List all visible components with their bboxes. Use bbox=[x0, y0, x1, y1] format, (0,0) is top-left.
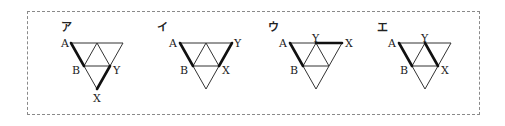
bold-edge-a-b bbox=[180, 43, 193, 66]
bold-edge-y-x bbox=[425, 43, 438, 66]
point-label-a: A bbox=[387, 37, 397, 50]
triangle-figures: ア A B Y X イ A B X Y ウ bbox=[0, 0, 505, 126]
figure-e: エ A B Y X bbox=[377, 21, 451, 89]
figure-u: ウ A B Y X bbox=[268, 21, 353, 89]
bold-edge-y-x bbox=[97, 66, 110, 89]
point-label-x: X bbox=[441, 64, 449, 77]
point-label-b: B bbox=[180, 64, 188, 77]
point-label-x: X bbox=[222, 64, 230, 77]
point-label-x: X bbox=[93, 92, 101, 105]
point-label-a: A bbox=[168, 37, 178, 50]
point-label-x: X bbox=[345, 37, 353, 50]
bold-edge-a-b bbox=[290, 43, 303, 66]
bold-edge-a-b bbox=[399, 43, 412, 66]
point-label-a: A bbox=[60, 37, 70, 50]
point-label-a: A bbox=[278, 37, 288, 50]
point-label-y: Y bbox=[112, 64, 121, 77]
point-label-b: B bbox=[400, 64, 408, 77]
figure-label-a: ア bbox=[61, 21, 72, 34]
point-label-b: B bbox=[72, 64, 80, 77]
point-label-y: Y bbox=[311, 32, 320, 45]
bold-edge-a-b bbox=[71, 43, 84, 66]
figure-i: イ A B X Y bbox=[157, 21, 242, 89]
figure-label-u: ウ bbox=[268, 21, 279, 34]
figure-a: ア A B Y X bbox=[60, 21, 123, 105]
bold-edge-x-y bbox=[219, 43, 232, 66]
point-label-y: Y bbox=[233, 37, 242, 50]
point-label-y: Y bbox=[420, 32, 429, 45]
figure-label-e: エ bbox=[377, 21, 388, 34]
figure-label-i: イ bbox=[157, 21, 168, 34]
point-label-b: B bbox=[290, 64, 298, 77]
